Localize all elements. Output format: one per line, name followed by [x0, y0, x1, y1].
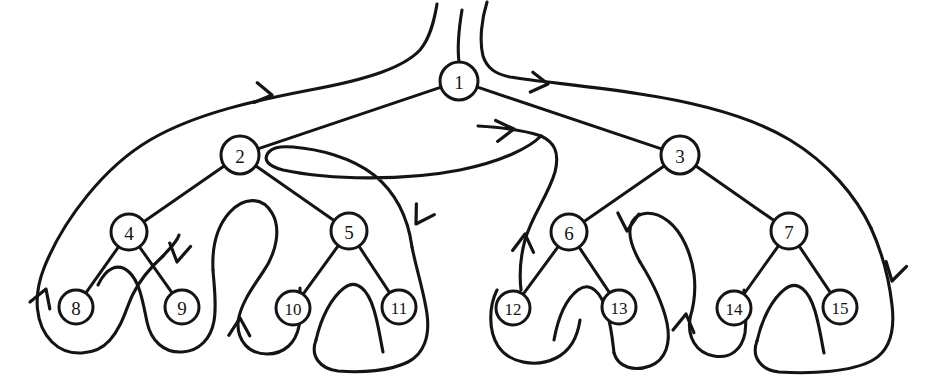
arrow-left-outer-descend	[30, 285, 56, 310]
tree-node-10[interactable]: 10	[276, 291, 310, 325]
tour-segment-left-up-to-2	[213, 201, 277, 322]
tour-segment-right-arch-1415	[757, 285, 824, 353]
tree-node-15[interactable]: 15	[823, 290, 857, 324]
tree-edge-6-12	[523, 246, 559, 295]
tour-segment-left-return-to-root	[266, 136, 541, 247]
tree-node-label-7: 7	[784, 222, 794, 243]
tree-node-label-2: 2	[235, 146, 245, 167]
tree-node-label-3: 3	[675, 146, 685, 167]
tree-edge-5-10	[302, 245, 339, 295]
arrow-right-inner-ascend	[616, 212, 639, 232]
tree-node-label-13: 13	[611, 299, 628, 318]
tree-node-label-9: 9	[177, 298, 187, 319]
euler-tour-outline	[37, 2, 893, 373]
tree-node-label-15: 15	[832, 299, 849, 318]
tree-node-1[interactable]: 1	[440, 62, 478, 100]
tree-edge-4-8	[85, 246, 119, 294]
tree-node-12[interactable]: 12	[496, 291, 530, 325]
tree-edge-5-11	[358, 245, 390, 293]
tree-node-label-12: 12	[505, 300, 522, 319]
tour-segment-root-stub	[458, 10, 462, 62]
tree-node-8[interactable]: 8	[59, 290, 93, 324]
euler-tour-figure: 123456789101112131415	[0, 0, 931, 378]
tree-node-5[interactable]: 5	[331, 213, 367, 249]
tree-node-14[interactable]: 14	[717, 291, 751, 325]
tree-node-label-14: 14	[726, 300, 744, 319]
tree-node-6[interactable]: 6	[551, 214, 587, 250]
tree-node-label-4: 4	[124, 223, 134, 244]
arrow-left-return-ascend	[407, 203, 434, 230]
tree-node-11[interactable]: 11	[382, 290, 416, 324]
arrow-right-mid-descend	[673, 312, 697, 333]
arrow-root-to-left-subtree	[253, 83, 274, 106]
tree-node-9[interactable]: 9	[165, 290, 199, 324]
tree-node-label-8: 8	[71, 298, 81, 319]
tour-segment-right-outer-return	[481, 2, 871, 228]
tree-edge-7-14	[743, 245, 779, 295]
tree-node-label-11: 11	[391, 299, 407, 318]
tour-segment-left-arch-1011	[316, 284, 383, 352]
tree-node-label-10: 10	[285, 300, 302, 319]
tree-node-4[interactable]: 4	[111, 214, 147, 250]
tour-segment-right-inner-descend	[520, 136, 557, 290]
tree-edge-3-7	[695, 165, 775, 221]
figure-canvas: 123456789101112131415	[0, 0, 931, 378]
tree-node-label-6: 6	[564, 223, 574, 244]
tree-node-label-1: 1	[454, 72, 464, 93]
tree-node-7[interactable]: 7	[771, 213, 807, 249]
tree-edge-2-4	[143, 165, 225, 222]
tree-edge-7-15	[799, 245, 832, 294]
tree-edge-1-3	[476, 87, 663, 150]
arrow-right-to-root	[529, 72, 549, 95]
arrow-left-inner-ascend	[166, 242, 190, 264]
tree-node-13[interactable]: 13	[602, 290, 636, 324]
tree-node-3[interactable]: 3	[661, 136, 699, 174]
tree-node-2[interactable]: 2	[221, 136, 259, 174]
tree-node-label-5: 5	[344, 222, 354, 243]
